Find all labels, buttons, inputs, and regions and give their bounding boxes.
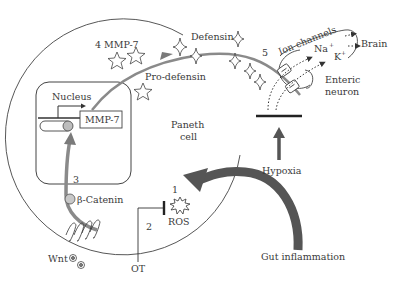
gut-inflammation-arrow (183, 168, 298, 250)
enteric-label-line2: neuron (325, 86, 359, 97)
wnt-ligand-icons (70, 255, 85, 269)
ion-channel-icons (277, 63, 300, 93)
defensin-label: Defensin (191, 31, 234, 42)
ot-label: OT (131, 263, 146, 274)
mmp7-gene-label: MMP-7 (85, 114, 120, 125)
beta-catenin-label: β-Catenin (77, 194, 123, 205)
beta-catenin-circle-icon (65, 194, 75, 204)
hypoxia-label: Hypoxia (262, 165, 302, 176)
step-1-number: 1 (172, 184, 178, 195)
transcription-factor-capsule-icon (40, 121, 73, 131)
paneth-cell-diagram: Nucleus MMP-7 1 4 MMP-7 Pro-defensin Def… (0, 0, 398, 282)
gut-inflammation-label: Gut inflammation (261, 251, 345, 262)
sodium-charge: + (329, 41, 334, 48)
pro-defensin-label: Pro-defensin (145, 71, 206, 82)
paneth-label-line2: cell (180, 131, 197, 142)
step4-mmp7-label: 4 MMP-7 (95, 39, 139, 50)
hypoxia-arrow (273, 127, 285, 160)
sodium-ion-label: Na (314, 43, 328, 54)
step-3-number: 3 (73, 174, 79, 185)
ros-burst-icon (170, 197, 190, 214)
mmp7-gene-box: MMP-7 (80, 111, 122, 128)
step-5-number: 5 (262, 47, 268, 58)
paneth-label-line1: Paneth (171, 119, 204, 130)
step-2-number: 2 (146, 221, 152, 232)
enteric-label-line1: Enteric (325, 74, 360, 85)
nucleus-label: Nucleus (52, 91, 92, 102)
potassium-charge: + (341, 49, 346, 56)
beta-catenin-pathway-arrow (64, 132, 97, 230)
brain-label: Brain (361, 38, 387, 49)
wnt-label: Wnt (48, 253, 68, 264)
ros-label: ROS (168, 216, 189, 227)
